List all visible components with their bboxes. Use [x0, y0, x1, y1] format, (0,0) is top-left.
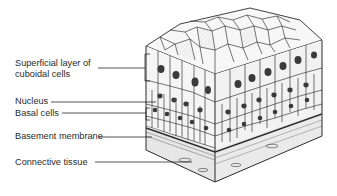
epithelium-block-illustration: [0, 0, 337, 196]
